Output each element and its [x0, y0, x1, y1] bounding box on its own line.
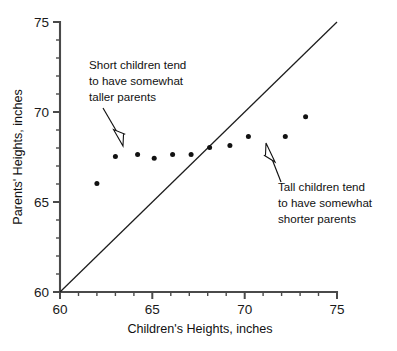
short-children-annotation-line-2: to have somewhat [89, 74, 184, 87]
data-point [113, 154, 118, 159]
y-axis-title: Parents' Heights, inches [11, 89, 25, 224]
x-tick-label-70: 70 [237, 302, 252, 317]
y-tick-label-70: 70 [34, 105, 49, 120]
y-tick-label-75: 75 [34, 15, 49, 30]
short-children-annotation: Short children tend to have somewhat tal… [89, 58, 186, 146]
tall-children-annotation-line-2: to have somewhat [278, 196, 373, 209]
data-point [152, 156, 157, 161]
x-tick-label-65: 65 [145, 302, 160, 317]
data-point [189, 152, 194, 157]
tall-children-annotation: Tall children tend to have somewhat shor… [265, 143, 373, 225]
tall-children-annotation-arrow-head [265, 143, 276, 162]
x-axis-title: Children's Heights, inches [127, 322, 272, 336]
y-tick-label-65: 65 [34, 195, 49, 210]
tall-children-annotation-line-3: shorter parents [278, 212, 356, 225]
data-point [94, 181, 99, 186]
y-axis-tick-labels: 75 70 65 60 [34, 15, 49, 300]
y-tick-label-60: 60 [34, 285, 49, 300]
x-axis-tick-labels: 60 65 70 75 [52, 302, 344, 317]
short-children-annotation-arrow-head [114, 130, 125, 147]
tall-children-annotation-arrow-shaft [272, 159, 281, 182]
plot-area: 75 70 65 60 60 65 70 75 Children's Heigh… [0, 0, 397, 351]
data-point [170, 152, 175, 157]
data-point [283, 134, 288, 139]
data-point [207, 145, 212, 150]
data-point [303, 114, 308, 119]
x-tick-label-75: 75 [329, 302, 344, 317]
tall-children-annotation-line-1: Tall children tend [278, 180, 365, 193]
scatter-chart: 75 70 65 60 60 65 70 75 Children's Heigh… [0, 0, 397, 351]
data-point [135, 152, 140, 157]
x-tick-label-60: 60 [52, 302, 67, 317]
short-children-annotation-arrow-shaft [103, 108, 117, 132]
short-children-annotation-line-1: Short children tend [89, 58, 186, 71]
short-children-annotation-line-3: taller parents [89, 90, 156, 103]
data-points [94, 114, 308, 186]
data-point [246, 134, 251, 139]
data-point [227, 143, 232, 148]
